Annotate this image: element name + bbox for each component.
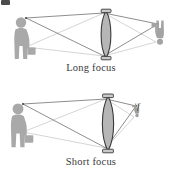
lens-short-focus — [102, 96, 113, 151]
lens-rim-top-long — [101, 9, 111, 12]
lens-rim-bottom-long — [101, 56, 111, 59]
ray-bundle-dark-short — [23, 99, 136, 148]
optics-figure: f Long focus Short focus — [0, 0, 182, 179]
object-head-point-long — [25, 17, 27, 19]
ray-diagram-canvas — [0, 0, 182, 179]
focal-length-label: f — [137, 101, 140, 111]
diagram-short-focus — [11, 94, 139, 153]
object-person-long — [14, 17, 35, 59]
lens-long-focus — [101, 11, 111, 58]
diagram-long-focus — [14, 9, 164, 60]
image-person-long — [152, 20, 164, 44]
ray-bundle-light-short — [23, 99, 134, 148]
caption-short-focus: Short focus — [0, 156, 182, 167]
lens-rim-bottom-short — [103, 149, 114, 153]
object-person-short — [11, 103, 33, 147]
caption-long-focus: Long focus — [0, 62, 182, 73]
object-head-point-short — [22, 103, 24, 105]
lens-rim-top-short — [103, 94, 114, 98]
